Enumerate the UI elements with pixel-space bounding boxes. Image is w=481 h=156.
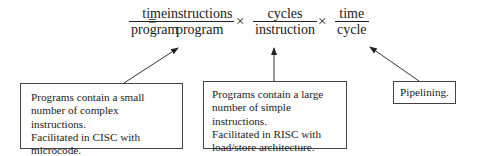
cisc-line-3: Facilitated in CISC with <box>31 131 172 144</box>
cisc-line-2: number of complex instructions. <box>31 104 172 131</box>
cisc-arrow <box>124 48 178 83</box>
risc-line-1: Programs contain a large <box>212 88 338 101</box>
risc-annotation-box: Programs contain a large number of simpl… <box>203 81 347 149</box>
risc-line-2: number of simple instructions. <box>212 101 338 128</box>
cisc-line-4: microcode. <box>31 144 172 156</box>
risc-line-3: Facilitated in RISC with <box>212 128 338 141</box>
pipelining-annotation-box: Pipelining. <box>393 81 456 104</box>
pipelining-arrow <box>370 47 419 81</box>
risc-line-4: load/store architecture. <box>212 141 338 154</box>
cisc-line-1: Programs contain a small <box>31 91 172 104</box>
cisc-annotation-box: Programs contain a small number of compl… <box>20 83 183 149</box>
pipelining-line-1: Pipelining. <box>394 86 455 99</box>
